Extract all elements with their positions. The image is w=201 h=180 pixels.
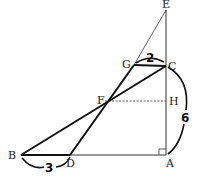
label-G: G [122, 58, 131, 71]
label-B: B [8, 149, 16, 162]
label-F: F [97, 94, 105, 107]
right-angle-marker [159, 149, 166, 155]
segment-BC [21, 66, 166, 155]
geometry-diagram: E G C F H B D A 2 3 6 [0, 0, 201, 180]
label-E: E [162, 0, 170, 11]
measure-GC: 2 [146, 51, 154, 65]
segment-DG [70, 65, 134, 155]
measure-CA: 6 [181, 111, 189, 125]
measure-BD: 3 [45, 161, 53, 175]
label-C: C [168, 60, 176, 73]
label-A: A [165, 157, 175, 170]
label-D: D [66, 157, 75, 170]
segment-GC [134, 65, 166, 66]
label-H: H [169, 95, 179, 108]
